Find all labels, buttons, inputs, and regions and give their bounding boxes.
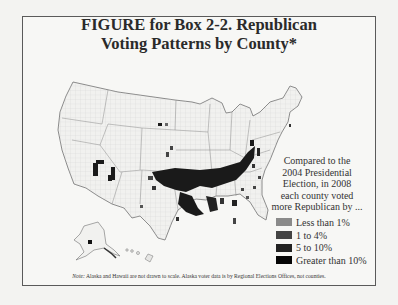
- legend-label: 5 to 10%: [296, 242, 332, 253]
- hawaii-outline: [126, 249, 153, 262]
- caption-line: each county voted: [262, 190, 372, 202]
- caption-line: Compared to the: [262, 155, 372, 167]
- legend-item-5-to-10: 5 to 10%: [276, 241, 367, 254]
- legend-swatch: [276, 218, 292, 226]
- legend-swatch: [276, 256, 292, 264]
- legend-item-greater-than-10: Greater than 10%: [276, 254, 367, 267]
- legend-label: Less than 1%: [296, 217, 350, 228]
- caption-line: more Republican by ...: [262, 201, 372, 213]
- figure-note: Note: Alaska and Hawaii are not drawn to…: [0, 273, 398, 279]
- caption-line: 2004 Presidential: [262, 167, 372, 179]
- legend-item-less-than-1: Less than 1%: [276, 216, 367, 229]
- legend-caption: Compared to the 2004 Presidential Electi…: [262, 155, 372, 213]
- legend-swatch: [276, 231, 292, 239]
- legend-label: Greater than 10%: [296, 255, 367, 266]
- legend-item-1-to-4: 1 to 4%: [276, 229, 367, 242]
- note-text: Alaska and Hawaii are not drawn to scale…: [86, 273, 326, 279]
- caption-line: Election, in 2008: [262, 178, 372, 190]
- map-legend: Less than 1% 1 to 4% 5 to 10% Greater th…: [276, 216, 367, 267]
- legend-label: 1 to 4%: [296, 230, 327, 241]
- legend-swatch: [276, 244, 292, 252]
- note-prefix: Note:: [72, 273, 84, 279]
